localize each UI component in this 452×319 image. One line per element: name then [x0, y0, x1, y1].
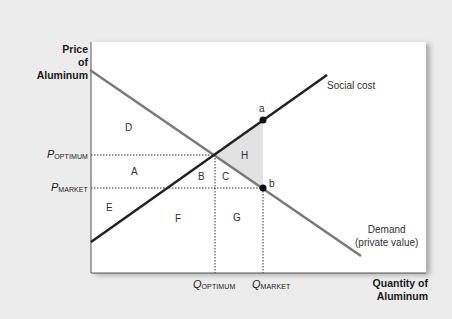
q-optimum-symbol: Q	[193, 278, 202, 290]
social-cost-label: Social cost	[327, 80, 375, 91]
q-optimum-subscript: OPTIMUM	[202, 283, 236, 290]
social-cost-curve	[91, 75, 327, 242]
p-market-subscript: MARKET	[58, 186, 88, 193]
y-axis-title-line1: Price	[37, 43, 88, 56]
p-market-label: PMARKET	[51, 181, 88, 193]
region-c-label: C	[222, 171, 229, 182]
y-axis-title-line3: Aluminum	[37, 69, 88, 82]
q-market-subscript: MARKET	[261, 283, 291, 290]
region-f-label: F	[175, 213, 181, 224]
x-axis-title-line2: Aluminum	[373, 290, 428, 303]
region-g-label: G	[233, 212, 241, 223]
region-e-label: E	[106, 202, 113, 213]
point-a	[260, 117, 267, 124]
q-market-label: QMARKET	[252, 278, 290, 290]
demand-curve	[90, 70, 361, 256]
y-axis-title: Price of Aluminum	[37, 43, 88, 82]
p-optimum-subscript: OPTIMUM	[54, 153, 88, 160]
demand-label-line1: Demand	[355, 223, 418, 236]
q-market-symbol: Q	[252, 278, 261, 290]
region-a-label: A	[131, 166, 138, 177]
region-d-label: D	[125, 122, 132, 133]
q-optimum-label: QOPTIMUM	[193, 278, 235, 290]
point-b	[260, 185, 267, 192]
region-b-label: B	[198, 171, 205, 182]
x-axis-title: Quantity of Aluminum	[373, 277, 428, 303]
p-optimum-label: POPTIMUM	[47, 148, 88, 160]
region-h-label: H	[241, 150, 248, 161]
demand-label-line2: (private value)	[355, 236, 418, 249]
point-a-label: a	[259, 103, 265, 114]
x-axis-title-line1: Quantity of	[373, 277, 428, 290]
demand-label: Demand (private value)	[355, 223, 418, 249]
y-axis-title-line2: of	[37, 56, 88, 69]
point-b-label: b	[269, 178, 275, 189]
